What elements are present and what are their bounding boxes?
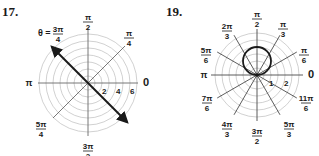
theta-prefix: θ = xyxy=(38,28,51,38)
svg-text:3: 3 xyxy=(225,130,230,139)
svg-text:3π: 3π xyxy=(252,127,263,136)
theta-den: 4 xyxy=(56,35,61,44)
svg-text:4π: 4π xyxy=(222,120,233,129)
angle-label: 0 xyxy=(308,68,314,80)
tick-1: 1 xyxy=(269,79,274,88)
svg-text:2: 2 xyxy=(86,152,91,156)
svg-text:6: 6 xyxy=(204,56,209,65)
tick-2: 2 xyxy=(102,87,107,96)
svg-text:3: 3 xyxy=(225,32,230,41)
angle-label-fraction: π2 xyxy=(252,10,262,29)
svg-text:5π: 5π xyxy=(201,46,212,55)
angle-label-fraction: 5π4 xyxy=(36,120,47,139)
angle-label: π xyxy=(201,70,208,80)
svg-text:π: π xyxy=(126,29,132,38)
polar-diagrams: π2π40π5π43π2 2 4 6 θ = 3π 4 π2π32π3π65π6… xyxy=(0,0,319,156)
angle-label-fraction: 4π3 xyxy=(222,120,233,139)
angle-label-fraction: 5π6 xyxy=(201,46,212,65)
svg-text:2π: 2π xyxy=(222,22,233,31)
angle-label-fraction: 5π3 xyxy=(284,120,295,139)
svg-text:3: 3 xyxy=(281,30,286,39)
theta-label-17: θ = 3π 4 xyxy=(38,25,63,44)
svg-text:π: π xyxy=(85,13,91,22)
svg-text:2: 2 xyxy=(86,23,91,32)
svg-text:3π: 3π xyxy=(83,142,94,151)
pole-dot xyxy=(255,73,259,77)
angle-label-fraction: π2 xyxy=(83,13,93,32)
angle-label-fraction: π4 xyxy=(124,29,134,48)
tick-4: 4 xyxy=(116,87,121,96)
svg-text:6: 6 xyxy=(304,104,309,113)
angle-label-fraction: 11π6 xyxy=(299,94,314,113)
theta-num: 3π xyxy=(53,25,64,34)
svg-text:π: π xyxy=(254,10,260,19)
svg-text:π: π xyxy=(301,46,307,55)
svg-text:11π: 11π xyxy=(299,94,314,103)
svg-text:5π: 5π xyxy=(284,120,295,129)
svg-text:5π: 5π xyxy=(36,120,47,129)
radius-ticks-19: 1 2 xyxy=(269,79,289,88)
angle-label-fraction: 3π2 xyxy=(83,142,94,156)
angle-label: π xyxy=(26,78,33,88)
svg-text:4: 4 xyxy=(39,130,44,139)
svg-text:6: 6 xyxy=(205,104,210,113)
angle-label-fraction: 7π6 xyxy=(202,94,213,113)
svg-text:4: 4 xyxy=(127,39,132,48)
svg-text:3: 3 xyxy=(287,130,292,139)
tick-6: 6 xyxy=(130,87,135,96)
angle-label: 0 xyxy=(143,76,149,88)
tick-2: 2 xyxy=(284,79,289,88)
svg-text:2: 2 xyxy=(255,137,260,146)
svg-text:6: 6 xyxy=(302,56,307,65)
angle-label-fraction: 3π2 xyxy=(252,127,263,146)
svg-text:π: π xyxy=(280,20,286,29)
angle-label-fraction: π6 xyxy=(299,46,309,65)
angle-label-fraction: 2π3 xyxy=(222,22,233,41)
svg-text:7π: 7π xyxy=(202,94,213,103)
svg-text:2: 2 xyxy=(255,20,260,29)
